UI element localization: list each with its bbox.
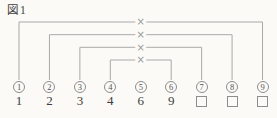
column-6: 69 [156, 81, 186, 108]
circled-number-3: 3 [74, 81, 86, 93]
circled-number-5: 5 [135, 81, 147, 93]
cross-mark: × [137, 16, 145, 27]
circled-number-8: 8 [226, 81, 238, 93]
circled-number-7: 7 [196, 81, 208, 93]
cross-mark: × [137, 42, 145, 53]
answer-box-8[interactable] [227, 96, 238, 107]
column-value-5: 6 [126, 94, 156, 108]
column-value-4: 4 [95, 94, 125, 108]
circled-number-9: 9 [257, 81, 269, 93]
column-value-2: 2 [34, 94, 64, 108]
answer-box-7[interactable] [196, 96, 207, 107]
column-value-6: 9 [156, 94, 186, 108]
circled-number-4: 4 [104, 81, 116, 93]
column-value-1: 1 [4, 94, 34, 108]
column-2: 22 [34, 81, 64, 108]
circled-number-2: 2 [43, 81, 55, 93]
column-8: 8 [217, 81, 247, 107]
figure-1: 図1 ×××× 112233445669789 [0, 0, 277, 118]
column-9: 9 [248, 81, 277, 107]
column-7: 7 [187, 81, 217, 107]
column-3: 33 [65, 81, 95, 108]
circled-number-1: 1 [13, 81, 25, 93]
cross-mark: × [137, 29, 145, 40]
circled-number-6: 6 [165, 81, 177, 93]
answer-box-9[interactable] [257, 96, 268, 107]
cross-mark: × [137, 54, 145, 65]
column-1: 11 [4, 81, 34, 108]
column-value-3: 3 [65, 94, 95, 108]
column-4: 44 [95, 81, 125, 108]
column-5: 56 [126, 81, 156, 108]
